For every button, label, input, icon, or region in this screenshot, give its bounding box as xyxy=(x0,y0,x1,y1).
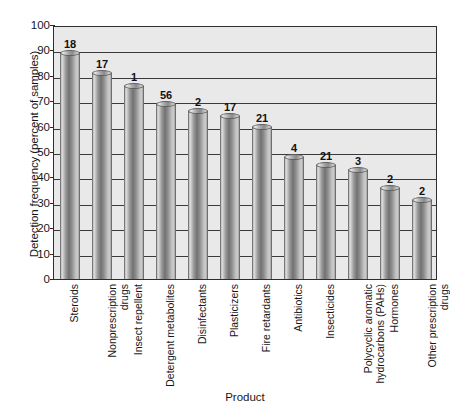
bar-cap xyxy=(92,70,112,76)
bar-cap xyxy=(412,197,432,203)
x-tick-label-line: Fire retardants xyxy=(260,284,272,352)
plot-area: 181715621721421322 xyxy=(53,26,437,280)
x-tick-label-line: Hormones xyxy=(388,284,400,332)
bar-value-label: 17 xyxy=(86,59,118,70)
x-tick-label: Antibiotics xyxy=(293,284,305,332)
bar[interactable] xyxy=(92,73,112,279)
bar-cap xyxy=(156,101,176,107)
x-axis-tick-labels: SteroidsNonprescriptiondrugsInsect repel… xyxy=(53,282,437,390)
y-tick-label: 100 xyxy=(12,20,50,32)
y-tick-label: 0 xyxy=(12,274,50,286)
x-tick-label: Fire retardants xyxy=(261,284,273,352)
bar-slot: 56 xyxy=(150,27,182,279)
x-tick-label-slot: Disinfectants xyxy=(181,282,213,390)
bar-value-label: 56 xyxy=(150,90,182,101)
x-tick-label-line: Steroids xyxy=(68,284,80,323)
y-tick-label: 30 xyxy=(12,198,50,210)
x-tick-label-slot: Insecticides xyxy=(309,282,341,390)
bar[interactable] xyxy=(348,170,368,279)
x-tick-label-slot: Steroids xyxy=(53,282,85,390)
bar[interactable] xyxy=(220,116,240,279)
bar-value-label: 2 xyxy=(374,174,406,185)
bar-slot: 17 xyxy=(214,27,246,279)
x-tick-label-line: Other prescription xyxy=(426,284,438,367)
bar-cap xyxy=(60,50,80,56)
bar[interactable] xyxy=(252,127,272,279)
y-tick-label: 20 xyxy=(12,223,50,235)
bar-cap xyxy=(188,108,208,114)
x-tick-label-slot: Other prescriptiondrugs xyxy=(405,282,437,390)
x-tick-label-slot: Insect repellent xyxy=(117,282,149,390)
bar-cap xyxy=(124,83,144,89)
x-tick-label: Steroids xyxy=(69,284,81,323)
x-tick-label-line: Insect repellent xyxy=(132,284,144,355)
x-tick-label-line: drugs xyxy=(439,284,450,367)
y-tick-label: 40 xyxy=(12,172,50,184)
bar-value-label: 2 xyxy=(406,186,438,197)
y-tick-label: 50 xyxy=(12,147,50,159)
bar-value-label: 17 xyxy=(214,102,246,113)
x-tick-label-line: Insecticides xyxy=(324,284,336,339)
bar-value-label: 4 xyxy=(278,143,310,154)
bar-cap xyxy=(348,167,368,173)
bar-slot: 4 xyxy=(278,27,310,279)
x-tick-label-slot: Fire retardants xyxy=(245,282,277,390)
x-tick-label: Other prescriptiondrugs xyxy=(427,284,450,367)
x-tick-label: Detergent metabolites xyxy=(165,284,177,387)
x-tick-label: Insecticides xyxy=(325,284,337,339)
x-axis-title: Product xyxy=(53,391,437,403)
y-tick-label: 10 xyxy=(12,249,50,261)
x-tick-label-line: Disinfectants xyxy=(196,284,208,344)
bar[interactable] xyxy=(412,200,432,279)
y-tick-label: 70 xyxy=(12,96,50,108)
x-tick-label-line: Plasticizers xyxy=(228,284,240,337)
y-axis-tick-labels: 1009080706050403020100 xyxy=(10,0,50,413)
bar-cap xyxy=(284,154,304,160)
x-tick-label-line: Detergent metabolites xyxy=(164,284,176,387)
x-tick-label: Insect repellent xyxy=(133,284,145,355)
bar-value-label: 1 xyxy=(118,72,150,83)
bar-slot: 17 xyxy=(86,27,118,279)
bar-slot: 21 xyxy=(246,27,278,279)
bar-slot: 2 xyxy=(182,27,214,279)
bar[interactable] xyxy=(60,53,80,279)
y-tick-label: 90 xyxy=(12,45,50,57)
x-tick-label: Disinfectants xyxy=(197,284,209,344)
bar[interactable] xyxy=(188,111,208,279)
bar-slot: 2 xyxy=(374,27,406,279)
bar[interactable] xyxy=(380,188,400,279)
bar[interactable] xyxy=(124,86,144,279)
bar-slot: 2 xyxy=(406,27,438,279)
bar-value-label: 2 xyxy=(182,97,214,108)
x-tick-label-slot: Polycyclic aromatichydrocarbons (PAHs) xyxy=(341,282,373,390)
x-tick-label-slot: Nonprescriptiondrugs xyxy=(85,282,117,390)
bar[interactable] xyxy=(284,157,304,279)
x-tick-label-line: Antibiotics xyxy=(292,284,304,332)
bar-value-label: 21 xyxy=(246,113,278,124)
bar-cap xyxy=(252,124,272,130)
bar-slot: 21 xyxy=(310,27,342,279)
bars-group: 181715621721421322 xyxy=(54,27,436,279)
bar-slot: 1 xyxy=(118,27,150,279)
bar-value-label: 21 xyxy=(310,151,342,162)
x-tick-label-slot: Antibiotics xyxy=(277,282,309,390)
bar-cap xyxy=(316,162,336,168)
bar[interactable] xyxy=(316,165,336,279)
bar-value-label: 18 xyxy=(54,39,86,50)
bar-cap xyxy=(380,185,400,191)
x-tick-label-slot: Detergent metabolites xyxy=(149,282,181,390)
y-tick-label: 60 xyxy=(12,122,50,134)
bar-slot: 18 xyxy=(54,27,86,279)
x-tick-label-slot: Hormones xyxy=(373,282,405,390)
x-tick-label-slot: Plasticizers xyxy=(213,282,245,390)
bar[interactable] xyxy=(156,104,176,279)
bar-slot: 3 xyxy=(342,27,374,279)
bar-cap xyxy=(220,113,240,119)
x-tick-label: Hormones xyxy=(389,284,401,332)
bar-value-label: 3 xyxy=(342,156,374,167)
x-tick-label: Plasticizers xyxy=(229,284,241,337)
y-tick-label: 80 xyxy=(12,71,50,83)
